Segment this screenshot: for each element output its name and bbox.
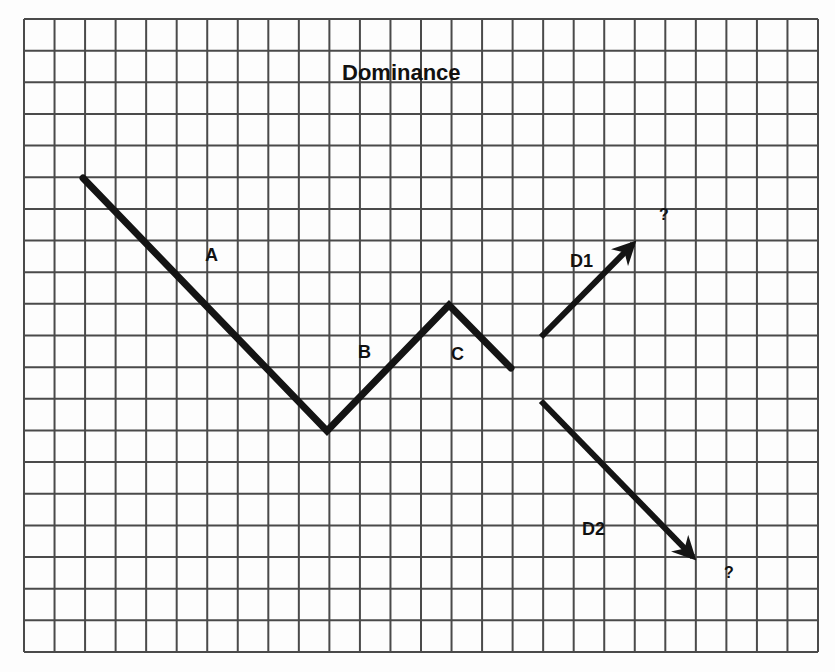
segment-label-a: A bbox=[205, 246, 218, 264]
branch-label-d2: D2 bbox=[582, 520, 605, 538]
segment-label-b: B bbox=[358, 343, 371, 361]
diagram-title: Dominance bbox=[342, 62, 461, 84]
branch-label-d1: D1 bbox=[570, 252, 593, 270]
projected-branches bbox=[541, 244, 693, 557]
dominance-diagram bbox=[0, 0, 835, 672]
arrow-d2 bbox=[541, 401, 693, 557]
outcome-question-d1: ? bbox=[659, 207, 669, 223]
segment-label-c: C bbox=[451, 345, 464, 363]
outcome-question-d2: ? bbox=[724, 565, 734, 581]
